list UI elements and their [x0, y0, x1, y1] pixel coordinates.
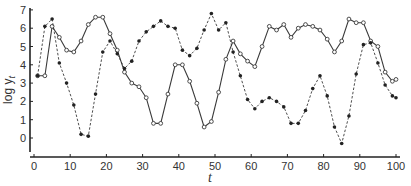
data-point-open: [383, 70, 387, 74]
data-point-filled: [253, 107, 257, 111]
y-tick-label: 1: [20, 114, 26, 126]
y-tick-label: 6: [20, 22, 26, 34]
x-axis: 0102030405060708090100: [30, 154, 405, 172]
data-point-filled: [260, 100, 264, 104]
data-point-open: [267, 24, 271, 28]
data-point-filled: [296, 122, 300, 126]
svg-text:log yt: log yt: [1, 76, 17, 104]
y-tick-label: 0: [20, 132, 26, 144]
data-point-filled: [144, 30, 148, 34]
data-point-open: [304, 23, 308, 27]
x-tick-label: 100: [387, 160, 405, 172]
data-point-open: [217, 90, 221, 94]
data-point-filled: [173, 26, 177, 30]
data-point-open: [275, 28, 279, 32]
data-point-filled: [101, 50, 105, 54]
series-line-1: [38, 14, 396, 144]
data-point-open: [144, 96, 148, 100]
x-tick-label: 80: [317, 160, 329, 172]
data-point-filled: [43, 25, 47, 29]
data-point-filled: [246, 98, 250, 102]
data-point-open: [181, 63, 185, 67]
data-point-open: [101, 15, 105, 19]
data-point-filled: [123, 67, 127, 71]
data-point-filled: [304, 109, 308, 113]
data-point-filled: [268, 96, 272, 100]
data-point-filled: [394, 96, 398, 100]
y-tick-label: 7: [20, 4, 26, 16]
data-point-open: [195, 101, 199, 105]
data-point-filled: [325, 94, 329, 98]
data-point-open: [43, 74, 47, 78]
data-point-filled: [311, 87, 315, 91]
data-point-filled: [239, 74, 243, 78]
data-point-open: [347, 17, 351, 21]
data-point-open: [173, 63, 177, 67]
data-point-open: [354, 21, 358, 25]
data-point-filled: [318, 74, 322, 78]
x-tick-label: 70: [281, 160, 293, 172]
data-point-filled: [369, 41, 373, 45]
data-point-open: [123, 70, 127, 74]
data-point-open: [318, 28, 322, 32]
data-point-filled: [231, 50, 235, 54]
data-point-open: [108, 32, 112, 36]
data-point-filled: [362, 43, 366, 47]
data-point-open: [296, 26, 300, 30]
data-point-filled: [130, 59, 134, 63]
data-point-filled: [188, 54, 192, 58]
data-point-open: [152, 121, 156, 125]
data-point-open: [325, 37, 329, 41]
data-point-open: [224, 57, 228, 61]
data-point-filled: [195, 47, 199, 51]
data-point-open: [166, 92, 170, 96]
data-point-open: [188, 79, 192, 83]
data-point-open: [311, 24, 315, 28]
series-line-0: [38, 17, 396, 127]
x-tick-label: 10: [64, 160, 76, 172]
data-point-filled: [202, 28, 206, 32]
data-point-open: [289, 35, 293, 39]
x-tick-label: 60: [245, 160, 257, 172]
data-point-filled: [65, 81, 69, 85]
data-point-open: [159, 121, 163, 125]
x-tick-label: 0: [31, 160, 37, 172]
data-point-filled: [72, 103, 76, 107]
data-point-filled: [181, 48, 185, 52]
data-point-filled: [50, 17, 54, 21]
data-point-open: [376, 45, 380, 49]
y-axis-title: log yt: [1, 76, 17, 104]
data-point-open: [340, 39, 344, 43]
x-tick-label: 30: [136, 160, 148, 172]
data-point-filled: [210, 12, 214, 16]
data-point-filled: [166, 25, 170, 29]
data-point-open: [282, 23, 286, 27]
data-point-open: [209, 120, 213, 124]
data-point-filled: [391, 94, 395, 98]
data-point-filled: [159, 19, 163, 23]
y-tick-label: 2: [20, 95, 26, 107]
data-point-open: [86, 23, 90, 27]
data-point-filled: [333, 125, 337, 129]
x-axis-title: t: [208, 170, 213, 185]
data-point-open: [65, 48, 69, 52]
y-tick-label: 5: [20, 41, 26, 53]
data-point-open: [202, 125, 206, 129]
data-point-filled: [224, 21, 228, 25]
data-point-filled: [354, 72, 358, 76]
data-point-filled: [282, 105, 286, 109]
data-point-open: [137, 85, 141, 89]
data-point-filled: [36, 74, 40, 78]
data-point-filled: [87, 134, 91, 138]
data-point-filled: [217, 28, 221, 32]
series-layer: [36, 12, 398, 146]
data-point-open: [94, 15, 98, 19]
data-point-filled: [383, 83, 387, 87]
data-point-filled: [289, 122, 293, 126]
data-point-filled: [340, 142, 344, 146]
data-point-filled: [137, 39, 141, 43]
data-point-open: [231, 39, 235, 43]
data-point-open: [79, 39, 83, 43]
data-point-open: [72, 50, 76, 54]
data-point-filled: [152, 25, 156, 29]
